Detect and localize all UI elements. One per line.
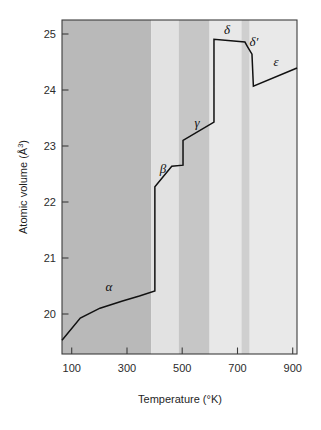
figure-container: 25 24 23 22 21 20 100 300 500 700 900 xyxy=(0,0,321,430)
y-tick-label-23: 23 xyxy=(44,140,56,152)
gamma-label: γ xyxy=(194,115,200,130)
x-tick-label-500: 500 xyxy=(173,362,191,374)
x-tick-label-700: 700 xyxy=(228,362,246,374)
y-axis-tick-labels: 25 24 23 22 21 20 xyxy=(44,28,56,320)
y-axis-title: Atomic volume (Å3) xyxy=(16,140,29,234)
beta-label: β xyxy=(159,161,167,176)
phase-bands-group xyxy=(62,20,297,354)
y-tick-label-20: 20 xyxy=(44,308,56,320)
x-axis-tick-labels: 100 300 500 700 900 xyxy=(63,362,302,374)
y-axis-title-close: ) xyxy=(17,140,29,144)
phase-band-delta-prime xyxy=(241,20,249,354)
alpha-label: α xyxy=(106,279,114,294)
y-tick-label-24: 24 xyxy=(44,84,56,96)
phase-band-gamma xyxy=(179,20,210,354)
delta-prime-label: δ′ xyxy=(250,34,259,49)
x-tick-label-900: 900 xyxy=(284,362,302,374)
x-axis-title: Temperature (°K) xyxy=(138,393,222,405)
y-tick-label-25: 25 xyxy=(44,28,56,40)
y-axis-title-main: Atomic volume (Å xyxy=(17,147,29,234)
delta-label: δ xyxy=(224,22,231,37)
epsilon-label: ε xyxy=(273,54,279,69)
atomic-volume-vs-temperature-chart: 25 24 23 22 21 20 100 300 500 700 900 xyxy=(0,0,321,430)
x-tick-label-100: 100 xyxy=(63,362,81,374)
phase-band-alpha xyxy=(62,20,151,354)
x-tick-label-300: 300 xyxy=(118,362,136,374)
phase-band-epsilon xyxy=(250,20,297,354)
y-tick-label-21: 21 xyxy=(44,252,56,264)
y-tick-label-22: 22 xyxy=(44,196,56,208)
